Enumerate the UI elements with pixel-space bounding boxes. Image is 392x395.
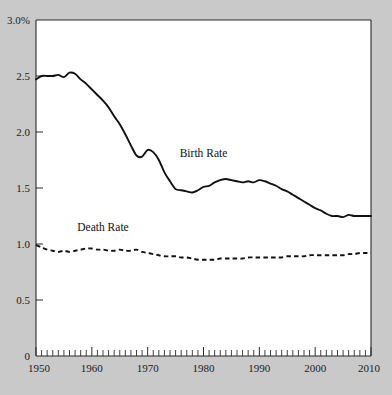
plot-area-background — [36, 20, 371, 356]
y-axis-tick-label: 1.0 — [16, 238, 30, 250]
x-axis-tick-label: 1980 — [193, 362, 216, 374]
y-axis-tick-label: 2.0 — [16, 126, 30, 138]
x-axis-tick-label: 2000 — [304, 362, 327, 374]
y-axis-tick-label: 2.5 — [16, 70, 30, 82]
y-axis-tick-label: 3.0% — [7, 14, 30, 26]
y-axis-tick-label: 0 — [25, 350, 31, 362]
x-axis-tick-label: 1990 — [248, 362, 271, 374]
series-annotation-birth-rate: Birth Rate — [180, 147, 228, 159]
y-axis-tick-label: 1.5 — [16, 182, 30, 194]
x-axis-tick-label: 1970 — [137, 362, 160, 374]
x-axis-tick-label: 1950 — [28, 362, 51, 374]
x-axis-tick-label: 2010 — [358, 362, 381, 374]
birth-death-rate-line-chart: 3.0%2.52.01.51.00.50 1950196019701980199… — [0, 0, 392, 395]
y-axis-tick-label: 0.5 — [16, 294, 30, 306]
series-annotation-death-rate: Death Rate — [77, 221, 128, 233]
x-axis-tick-label: 1960 — [81, 362, 104, 374]
chart-container: 3.0%2.52.01.51.00.50 1950196019701980199… — [0, 0, 392, 395]
